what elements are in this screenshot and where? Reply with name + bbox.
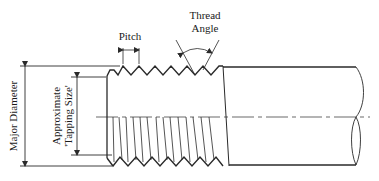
thread-angle-label-line2: Angle	[192, 22, 219, 34]
pitch-label: Pitch	[119, 30, 142, 42]
thread-angle-label-line1: Thread	[189, 9, 221, 21]
tapping-size-dimension: Approximate 'Tapping Size'	[50, 77, 112, 155]
thread-diagram: Major Diameter Approximate 'Tapping Size…	[0, 0, 379, 181]
tapping-size-label-line1: Approximate	[50, 87, 62, 145]
tapping-size-label-line2: 'Tapping Size'	[62, 85, 74, 147]
shank	[223, 67, 364, 165]
pitch-dimension: Pitch	[119, 30, 142, 64]
threaded-section	[107, 66, 229, 166]
thread-angle-dimension: Thread Angle	[176, 9, 221, 75]
major-diameter-label: Major Diameter	[7, 80, 19, 151]
